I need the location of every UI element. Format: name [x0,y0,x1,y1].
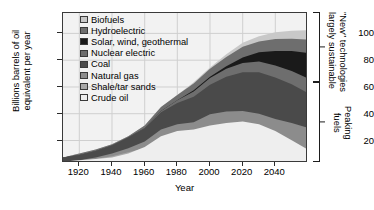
legend-swatch-biofuels [80,16,88,23]
y-axis-title-line1: Billions barrels of oil [10,0,21,151]
x-axis-title: Year [62,182,307,193]
y-axis-title-line2: equivalent per year [21,0,32,151]
legend-label-coal: Coal [91,59,110,69]
legend-label-solar-wind-geothermal: Solar, wind, geothermal [91,37,188,47]
legend-swatch-shale-tar-sands [80,83,88,90]
legend-label-hydroelectric: Hydroelectric [91,26,145,36]
legend-swatch-crude-oil [80,94,88,101]
stacked-area-chart-figure: Billions barrels of oil equivalent per y… [0,0,374,210]
annotation-peaking-fuels-line1: Peaking [343,106,353,140]
x-tick-label-1920: 1920 [68,166,89,177]
legend-label-nuclear-electric: Nuclear electric [91,48,155,58]
legend-swatch-solar-wind-geothermal [80,38,88,45]
legend-item-biofuels[interactable]: Biofuels [80,14,188,25]
x-tick-label-2020: 2020 [231,166,252,177]
legend-item-natural-gas[interactable]: Natural gas [80,70,188,81]
bracket-tick [320,121,325,122]
legend-label-shale-tar-sands: Shale/tar sands [91,82,156,92]
legend-swatch-natural-gas [80,72,88,79]
legend-swatch-nuclear-electric [80,50,88,57]
legend-swatch-coal [80,61,88,68]
legend-item-crude-oil[interactable]: Crude oil [80,92,188,103]
legend-label-crude-oil: Crude oil [91,93,128,103]
annotation-new-technologies-line1: "New" technologies [338,12,348,92]
annotation-new-technologies: "New" technologies largely sustainable [326,12,348,82]
x-tick-label-1940: 1940 [100,166,121,177]
x-tick-label-2000: 2000 [198,166,219,177]
annotation-peaking-fuels: Peaking fuels [331,92,353,154]
x-tick-label-1980: 1980 [166,166,187,177]
legend-item-hydroelectric[interactable]: Hydroelectric [80,25,188,36]
legend-swatch-hydroelectric [80,27,88,34]
legend-label-biofuels: Biofuels [91,15,124,25]
legend-item-nuclear-electric[interactable]: Nuclear electric [80,48,188,59]
x-tick-label-1960: 1960 [133,166,154,177]
legend-item-solar-wind-geothermal[interactable]: Solar, wind, geothermal [80,36,188,47]
bracket-peaking-fuels [313,82,320,162]
y-axis-title: Billions barrels of oil equivalent per y… [10,0,40,151]
legend-label-natural-gas: Natural gas [91,71,139,81]
bracket-new-technologies [313,12,320,82]
bracket-tick [320,46,325,47]
legend-item-coal[interactable]: Coal [80,59,188,70]
chart-legend: Biofuels Hydroelectric Solar, wind, geot… [80,14,188,104]
annotation-peaking-fuels-line2: fuels [332,113,342,133]
annotation-new-technologies-line2: largely sustainable [327,12,337,89]
x-tick-label-2040: 2040 [264,166,285,177]
legend-item-shale-tar-sands[interactable]: Shale/tar sands [80,81,188,92]
